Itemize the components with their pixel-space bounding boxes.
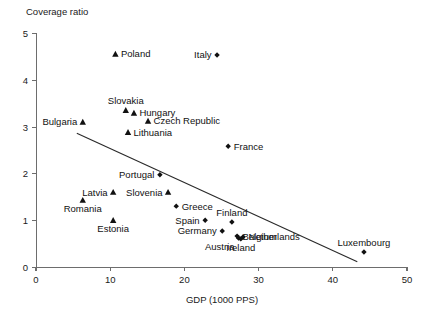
x-tick-label: 30 bbox=[253, 274, 264, 285]
marker-triangle bbox=[112, 51, 118, 57]
point-label: Portugal bbox=[119, 169, 154, 180]
point-label: Estonia bbox=[97, 223, 129, 234]
point-label: Finland bbox=[216, 207, 247, 218]
data-point-labels: PolandItalySlovakiaHungaryCzech Republic… bbox=[42, 48, 390, 252]
x-tick-label: 20 bbox=[179, 274, 190, 285]
x-tick-label: 50 bbox=[402, 274, 413, 285]
x-tick-label: 0 bbox=[33, 274, 38, 285]
marker-triangle bbox=[123, 107, 129, 113]
y-tick-label: 1 bbox=[23, 215, 28, 226]
marker-diamond bbox=[214, 52, 219, 57]
x-axis-title: GDP (1000 PPS) bbox=[186, 294, 258, 305]
marker-diamond bbox=[202, 218, 207, 223]
axes bbox=[32, 33, 407, 271]
point-label: Luxembourg bbox=[338, 237, 391, 248]
marker-diamond bbox=[225, 144, 230, 149]
marker-triangle bbox=[125, 129, 131, 135]
marker-diamond bbox=[229, 219, 234, 224]
point-label: Lithuania bbox=[134, 127, 173, 138]
point-label: Czech Republic bbox=[154, 115, 221, 126]
point-label: Slovakia bbox=[108, 95, 145, 106]
point-label: Greece bbox=[182, 201, 213, 212]
point-label: Bulgaria bbox=[42, 116, 78, 127]
point-label: Italy bbox=[194, 49, 212, 60]
marker-diamond bbox=[361, 249, 366, 254]
plot-area: PolandItalySlovakiaHungaryCzech Republic… bbox=[0, 0, 429, 317]
point-label: Spain bbox=[175, 215, 199, 226]
point-label: Romania bbox=[64, 203, 103, 214]
point-label: Netherlands bbox=[249, 231, 300, 242]
marker-triangle bbox=[131, 110, 137, 116]
y-tick-label: 3 bbox=[23, 122, 28, 133]
point-label: Latvia bbox=[82, 187, 108, 198]
marker-diamond bbox=[174, 203, 179, 208]
y-tick-label: 4 bbox=[23, 75, 28, 86]
point-label: Slovenia bbox=[126, 187, 163, 198]
point-label: France bbox=[234, 141, 264, 152]
marker-triangle bbox=[165, 189, 171, 195]
marker-triangle bbox=[80, 119, 86, 125]
marker-diamond bbox=[157, 172, 162, 177]
marker-triangle bbox=[110, 217, 116, 223]
y-tick-label: 0 bbox=[23, 262, 28, 273]
scatter-chart: Coverage ratio PolandItalySlovakiaHungar… bbox=[0, 0, 429, 317]
x-tick-label: 40 bbox=[328, 274, 339, 285]
x-tick-label: 10 bbox=[105, 274, 116, 285]
point-label: Ireland bbox=[226, 242, 255, 253]
y-tick-label: 2 bbox=[23, 168, 28, 179]
y-tick-label: 5 bbox=[23, 28, 28, 39]
marker-triangle bbox=[145, 118, 151, 124]
point-label: Germany bbox=[178, 225, 217, 236]
marker-diamond bbox=[220, 228, 225, 233]
marker-triangle bbox=[80, 197, 86, 203]
marker-triangle bbox=[110, 189, 116, 195]
point-label: Poland bbox=[121, 48, 151, 59]
